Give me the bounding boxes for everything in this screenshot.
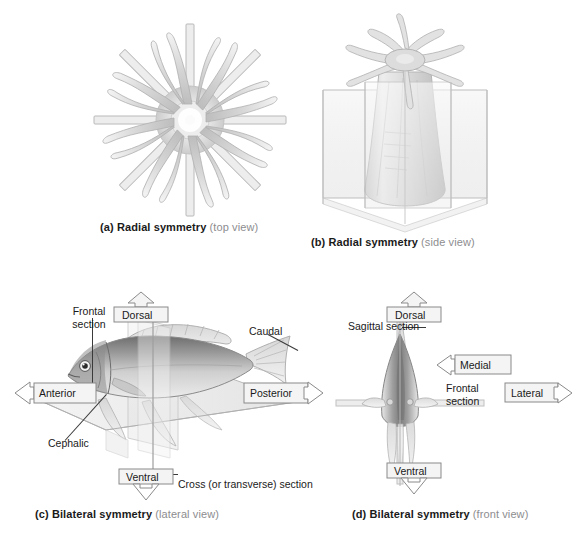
ventral-arrowhead-d xyxy=(401,478,427,494)
panel-a-radial-top xyxy=(75,18,305,218)
panel-c-caption: (c) Bilateral symmetry (lateral view) xyxy=(35,508,219,520)
panel-d-caption-lead: (d) Bilateral symmetry xyxy=(352,508,470,520)
medial-arrow-d: Medial xyxy=(436,352,512,378)
panel-b-caption-lead: (b) Radial symmetry xyxy=(311,236,418,248)
lateral-label-d: Lateral xyxy=(511,388,543,399)
ventral-arrow-d: Ventral xyxy=(386,462,442,498)
anterior-arrowhead-c xyxy=(15,382,34,404)
dorsal-label-c: Dorsal xyxy=(122,310,152,321)
medial-arrowhead-d xyxy=(437,355,455,375)
cross-section-label-c: Cross (or transverse) section xyxy=(178,478,313,491)
dorsal-arrowhead-d xyxy=(401,292,427,307)
panel-c-caption-lead: (c) Bilateral symmetry xyxy=(35,508,152,520)
frontal-section-label-d-line2: section xyxy=(446,395,479,407)
anemone-side-view-artwork xyxy=(305,12,505,232)
dorsal-arrow-d: Dorsal xyxy=(386,291,442,327)
frontal-section-label-c-line2: section xyxy=(72,318,105,330)
caudal-label-c: Caudal xyxy=(249,325,282,338)
panel-b-caption-sub: (side view) xyxy=(421,236,475,248)
dorsal-label-d: Dorsal xyxy=(395,310,425,321)
panel-a-caption-sub: (top view) xyxy=(210,221,259,233)
lateral-arrow-d: Lateral xyxy=(504,380,578,406)
panel-a-caption: (a) Radial symmetry (top view) xyxy=(100,221,258,233)
panel-b-radial-side xyxy=(305,12,505,232)
ventral-label-c: Ventral xyxy=(126,472,159,483)
frontal-section-label-d-line1: Frontal xyxy=(446,382,479,394)
panel-b-caption: (b) Radial symmetry (side view) xyxy=(311,236,475,248)
posterior-label-c: Posterior xyxy=(250,388,292,399)
panel-d-caption-sub: (front view) xyxy=(473,508,529,520)
dorsal-arrow-c: Dorsal xyxy=(113,291,169,327)
anterior-label-c: Anterior xyxy=(39,388,76,399)
frontal-section-label-c-line1: Frontal xyxy=(73,305,106,317)
cephalic-label-c: Cephalic xyxy=(48,437,89,450)
medial-label-d: Medial xyxy=(460,360,491,371)
panel-a-caption-lead: (a) Radial symmetry xyxy=(100,221,206,233)
ventral-arrow-c: Ventral xyxy=(118,468,174,504)
frontal-section-label-d: Frontal section xyxy=(446,382,502,407)
posterior-arrow-c: Posterior xyxy=(243,379,331,407)
anemone-top-view-artwork xyxy=(75,18,305,218)
dorsal-arrowhead-c xyxy=(128,292,154,307)
ventral-arrowhead-c xyxy=(133,484,159,500)
frontal-section-label-c: Frontal section xyxy=(63,305,115,330)
ventral-label-d: Ventral xyxy=(394,466,427,477)
panel-c-caption-sub: (lateral view) xyxy=(155,508,219,520)
panel-d-caption: (d) Bilateral symmetry (front view) xyxy=(352,508,528,520)
anterior-arrow-c: Anterior xyxy=(14,379,98,407)
